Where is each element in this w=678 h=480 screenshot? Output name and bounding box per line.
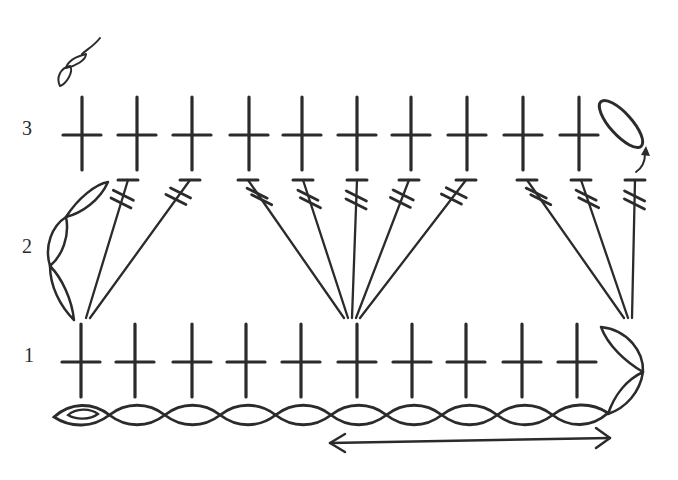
row-2-turning-chain-icon (48, 182, 108, 320)
single-crochet-icon (503, 324, 541, 397)
slip-knot-icon (68, 410, 98, 419)
row-3-stitches (63, 97, 598, 170)
chain-legend-icon (58, 38, 100, 86)
single-crochet-icon (63, 97, 101, 170)
chain-stitch-icon (276, 405, 331, 425)
single-crochet-icon (173, 97, 211, 170)
single-crochet-icon (392, 97, 430, 170)
double-treble-icon (293, 180, 348, 318)
chain-stitch-icon (54, 405, 109, 425)
single-crochet-icon (282, 324, 320, 397)
row-1-turning-chain-icon (601, 327, 643, 414)
row-2-stitches (86, 180, 645, 318)
row-label-3: 3 (22, 118, 32, 138)
chain-stitch-icon (553, 405, 608, 425)
chain-stitch-icon (386, 405, 441, 425)
single-crochet-icon (173, 324, 211, 397)
single-crochet-icon (447, 324, 485, 397)
single-crochet-icon (283, 97, 321, 170)
double-treble-icon (238, 180, 344, 318)
row-1-stitches (62, 324, 596, 397)
single-crochet-icon (118, 97, 156, 170)
crochet-chart (0, 0, 678, 480)
single-crochet-icon (230, 97, 268, 170)
single-crochet-icon (448, 97, 486, 170)
double-treble-icon (624, 180, 645, 318)
row-label-2: 2 (22, 236, 32, 256)
single-crochet-icon (338, 97, 376, 170)
single-crochet-icon (504, 97, 542, 170)
double-treble-icon (360, 180, 476, 318)
chain-stitch-icon (442, 405, 497, 425)
row-label-1: 1 (24, 345, 34, 365)
single-crochet-icon (560, 97, 598, 170)
single-crochet-icon (62, 324, 100, 397)
repeat-arrow-icon (330, 428, 610, 452)
chain-stitch-icon (109, 405, 164, 425)
single-crochet-icon (558, 324, 596, 397)
foundation-chain (54, 405, 608, 425)
chain-stitch-icon (497, 405, 552, 425)
single-crochet-icon (393, 324, 431, 397)
chain-stitch-icon (165, 405, 220, 425)
chain-stitch-icon (220, 405, 275, 425)
single-crochet-icon (116, 324, 154, 397)
single-crochet-icon (338, 324, 376, 397)
single-crochet-icon (227, 324, 265, 397)
double-treble-icon (571, 180, 628, 318)
row-3-turning-chain-icon (593, 94, 650, 172)
chain-stitch-icon (331, 405, 386, 425)
double-treble-icon (517, 180, 624, 318)
